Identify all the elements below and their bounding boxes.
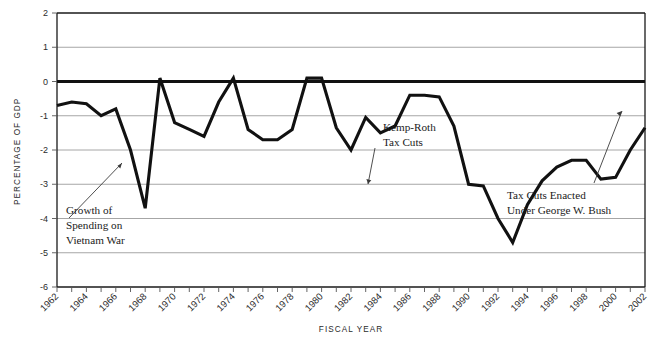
x-tick-label-1994: 1994	[508, 291, 531, 314]
y-tick-label: -5	[40, 248, 48, 258]
deficit-gdp-data-line	[57, 78, 645, 242]
y-axis-title: PERCENTAGE OF GDP	[13, 98, 22, 205]
x-tick-label-2002: 2002	[626, 291, 649, 314]
chart-figure: 210-1-2-3-4-5-6 196219641966196819701972…	[0, 0, 660, 348]
x-tick-label-1966: 1966	[96, 291, 119, 314]
y-axis-ticks: 210-1-2-3-4-5-6	[40, 8, 57, 292]
x-tick-label-1990: 1990	[449, 291, 472, 314]
x-tick-label-1968: 1968	[126, 291, 149, 314]
x-tick-label-1982: 1982	[332, 291, 355, 314]
annotation-vietnam-war: Growth of Spending on Vietnam War	[66, 163, 125, 246]
x-tick-label-1978: 1978	[273, 291, 296, 314]
x-tick-label-1964: 1964	[67, 291, 90, 314]
annotation-kemp-roth-line-2: Tax Cuts	[383, 136, 423, 148]
x-tick-label-1974: 1974	[214, 291, 237, 314]
deficit-percentage-of-gdp-line-chart: 210-1-2-3-4-5-6 196219641966196819701972…	[0, 0, 660, 348]
annotation-kemp-roth-line-1: Kemp-Roth	[383, 121, 436, 133]
x-tick-label-1996: 1996	[537, 291, 560, 314]
annotation-leader-line-kemp-roth	[368, 148, 375, 184]
x-tick-label-1984: 1984	[361, 291, 384, 314]
annotation-vietnam-line-2: Spending on	[66, 219, 123, 231]
x-tick-label-1962: 1962	[38, 291, 61, 314]
y-tick-label: 2	[43, 8, 48, 18]
arrowhead-icon	[118, 163, 123, 169]
x-tick-label-1970: 1970	[155, 291, 178, 314]
y-tick-label: 1	[43, 42, 48, 52]
x-tick-label-2000: 2000	[596, 291, 619, 314]
x-tick-label-1976: 1976	[243, 291, 266, 314]
annotation-bush-line-1: Tax Cuts Enacted	[507, 189, 586, 201]
y-tick-label: -1	[40, 111, 48, 121]
y-tick-label: -6	[40, 282, 48, 292]
y-tick-label: -2	[40, 145, 48, 155]
x-tick-label-1998: 1998	[567, 291, 590, 314]
annotation-vietnam-line-3: Vietnam War	[66, 234, 125, 246]
annotation-bush-line-2: Under George W. Bush	[507, 204, 612, 216]
y-tick-label: -4	[40, 214, 48, 224]
x-axis-tick-labels: 1962196419661968197019721974197619781980…	[38, 291, 649, 314]
x-axis-ticks	[57, 287, 645, 292]
annotation-vietnam-line-1: Growth of	[66, 204, 113, 216]
x-axis-title: FISCAL YEAR	[319, 325, 383, 334]
y-tick-label: 0	[43, 77, 48, 87]
x-tick-label-1988: 1988	[420, 291, 443, 314]
x-tick-label-1980: 1980	[302, 291, 325, 314]
arrowhead-icon	[366, 179, 371, 184]
y-tick-label: -3	[40, 179, 48, 189]
x-tick-label-1992: 1992	[479, 291, 502, 314]
x-tick-label-1986: 1986	[390, 291, 413, 314]
x-tick-label-1972: 1972	[185, 291, 208, 314]
